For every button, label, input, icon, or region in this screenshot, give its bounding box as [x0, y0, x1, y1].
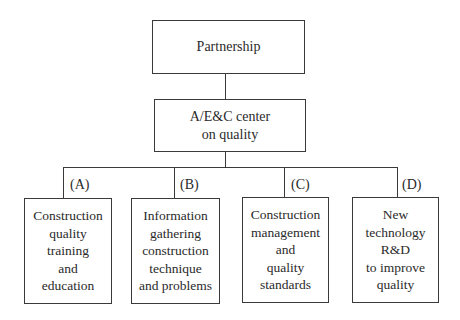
- branch-bus-line: [63, 167, 398, 168]
- connector-branch-d: [397, 167, 398, 197]
- branch-c-tag: (C): [291, 177, 310, 193]
- branch-b-label: Information gathering construction techn…: [139, 207, 212, 295]
- connector-branch-b: [174, 167, 175, 198]
- branch-c-label: Construction management and quality stan…: [251, 206, 321, 294]
- branch-c-box: Construction management and quality stan…: [242, 197, 329, 303]
- connector-branch-c: [284, 167, 285, 197]
- branch-b-box: Information gathering construction techn…: [131, 198, 220, 304]
- connector-root-center: [225, 73, 226, 100]
- branch-a-label: Construction quality training and educat…: [33, 207, 103, 295]
- partnership-box: Partnership: [152, 20, 305, 74]
- branch-d-box: New technology R&D to improve quality: [352, 197, 439, 303]
- connector-branch-a: [63, 167, 64, 198]
- branch-a-tag: (A): [70, 177, 89, 193]
- branch-b-tag: (B): [180, 177, 199, 193]
- center-box: A/E&C center on quality: [154, 99, 306, 152]
- connector-center-bus: [225, 151, 226, 168]
- center-label: A/E&C center on quality: [190, 108, 270, 143]
- branch-a-box: Construction quality training and educat…: [24, 198, 112, 304]
- branch-d-tag: (D): [402, 177, 421, 193]
- partnership-label: Partnership: [197, 38, 261, 56]
- branch-d-label: New technology R&D to improve quality: [366, 206, 426, 294]
